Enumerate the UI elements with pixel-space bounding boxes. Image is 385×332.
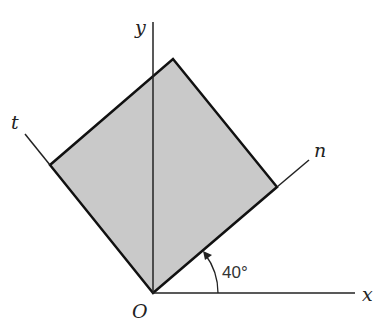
t-axis <box>25 134 50 165</box>
angle-arc <box>205 254 218 293</box>
angle-label: 40° <box>222 263 248 282</box>
diagram: y x n t O 40° <box>0 0 385 332</box>
x-label: x <box>362 283 373 305</box>
t-label: t <box>11 111 19 133</box>
origin-label: O <box>132 300 148 322</box>
y-label: y <box>134 16 146 38</box>
rotated-square <box>50 59 277 293</box>
n-axis <box>277 160 309 187</box>
n-label: n <box>314 139 326 161</box>
